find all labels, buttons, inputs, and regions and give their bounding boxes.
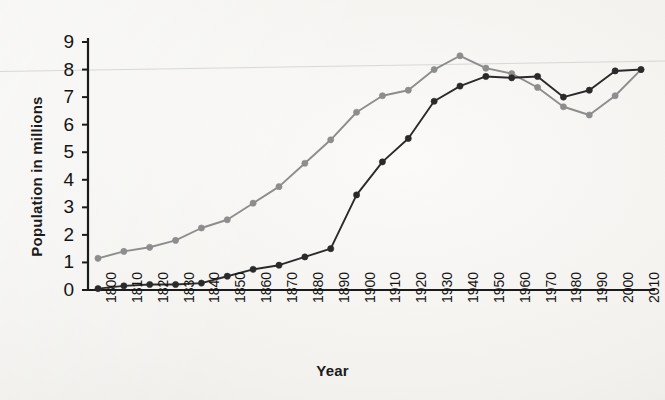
data-point [586, 87, 592, 93]
data-point [250, 200, 256, 206]
x-tick-label: 1980 [569, 272, 583, 303]
data-point [457, 53, 463, 59]
x-tick-label: 1830 [182, 272, 196, 303]
data-point [431, 66, 437, 72]
x-tick-label: 2010 [647, 272, 661, 303]
data-point [560, 104, 566, 110]
y-tick-label: 2 [52, 225, 74, 244]
series-series-gray [95, 53, 644, 262]
data-point [534, 84, 540, 90]
data-point [224, 273, 230, 279]
data-point [612, 68, 618, 74]
data-point [198, 225, 204, 231]
x-tick-label: 1800 [104, 272, 118, 303]
data-point [172, 281, 178, 287]
y-axis-title: Population in millions [28, 77, 45, 277]
x-tick-label: 1860 [259, 272, 273, 303]
x-tick-label: 1900 [363, 272, 377, 303]
data-point [276, 184, 282, 190]
data-point [638, 66, 644, 72]
x-tick-label: 1850 [233, 272, 247, 303]
data-point [224, 217, 230, 223]
x-tick-label: 1990 [595, 272, 609, 303]
x-tick-label: 1940 [466, 272, 480, 303]
x-tick-label: 1880 [311, 272, 325, 303]
series-series-dark [95, 66, 644, 291]
data-point [328, 137, 334, 143]
x-tick-label: 1810 [130, 272, 144, 303]
data-point [379, 93, 385, 99]
y-tick-label: 1 [52, 252, 74, 271]
y-tick-label: 0 [52, 280, 74, 299]
data-point [198, 280, 204, 286]
data-point [483, 65, 489, 71]
data-point [379, 159, 385, 165]
y-tick-label: 9 [52, 32, 74, 51]
x-tick-label: 1960 [518, 272, 532, 303]
y-tick-label: 7 [52, 87, 74, 106]
data-point [353, 192, 359, 198]
x-tick-label: 1820 [156, 272, 170, 303]
data-point [95, 286, 101, 292]
data-point [121, 248, 127, 254]
x-tick-label: 2000 [621, 272, 635, 303]
data-point [431, 98, 437, 104]
x-axis-title: Year [0, 362, 665, 379]
data-point [95, 255, 101, 261]
data-point [147, 281, 153, 287]
data-point [302, 254, 308, 260]
y-tick-label: 3 [52, 197, 74, 216]
x-tick-label: 1970 [544, 272, 558, 303]
data-point [405, 135, 411, 141]
data-point [483, 73, 489, 79]
data-series [95, 53, 644, 292]
y-tick-label: 8 [52, 60, 74, 79]
data-point [405, 87, 411, 93]
data-point [586, 112, 592, 118]
data-point [302, 160, 308, 166]
data-point [250, 266, 256, 272]
data-point [457, 83, 463, 89]
x-tick-label: 1950 [492, 272, 506, 303]
series-line [98, 56, 641, 259]
series-line [98, 70, 641, 289]
data-point [172, 237, 178, 243]
x-tick-label: 1910 [388, 272, 402, 303]
data-point [121, 283, 127, 289]
x-tick-label: 1870 [285, 272, 299, 303]
y-tick-label: 5 [52, 142, 74, 161]
x-tick-label: 1840 [207, 272, 221, 303]
data-point [560, 94, 566, 100]
x-tick-label: 1920 [414, 272, 428, 303]
data-point [353, 109, 359, 115]
y-tick-label: 4 [52, 170, 74, 189]
data-point [612, 93, 618, 99]
x-tick-label: 1890 [337, 272, 351, 303]
chart-screenshot: 0123456789 18001810182018301840185018601… [0, 0, 665, 400]
scan-artifact-line [0, 61, 665, 72]
y-tick-label: 6 [52, 115, 74, 134]
x-tick-label: 1930 [440, 272, 454, 303]
axes [88, 38, 655, 290]
data-point [534, 73, 540, 79]
data-point [328, 246, 334, 252]
data-point [276, 262, 282, 268]
data-point [509, 75, 515, 81]
line-chart-plot [0, 0, 665, 400]
data-point [147, 244, 153, 250]
